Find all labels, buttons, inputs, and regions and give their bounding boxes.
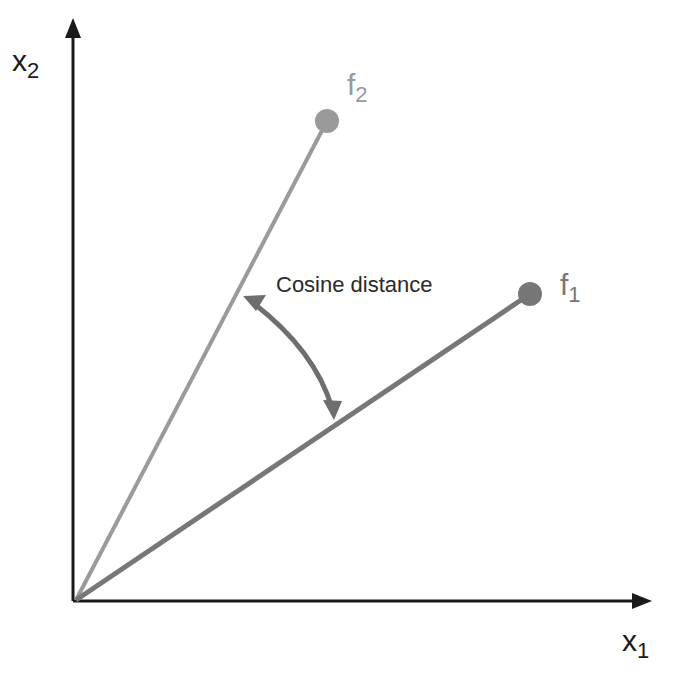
x-axis-arrowhead-icon: [632, 593, 652, 609]
f2-label: f2: [347, 68, 368, 108]
y-axis-label: x2: [12, 44, 39, 84]
vector-f1: [76, 282, 542, 600]
f1-label-sub: 1: [568, 282, 580, 307]
angle-arrow: [243, 295, 342, 420]
y-axis-arrowhead-icon: [65, 18, 81, 38]
vector-f2-endpoint: [315, 109, 339, 133]
vector-f1-endpoint: [518, 282, 542, 306]
x-axis-label-main: x: [622, 624, 637, 657]
cosine-distance-diagram: [0, 0, 673, 687]
x-axis-label-sub: 1: [637, 638, 649, 663]
f2-label-sub: 2: [355, 82, 367, 107]
y-axis-label-main: x: [12, 44, 27, 77]
y-axis-label-sub: 2: [27, 58, 39, 83]
x-axis: [73, 593, 652, 609]
vector-f2: [76, 109, 339, 600]
cosine-distance-label: Cosine distance: [276, 272, 433, 298]
y-axis: [65, 18, 81, 601]
arrowhead-down-icon: [323, 400, 342, 420]
x-axis-label: x1: [622, 624, 649, 664]
f1-label: f1: [560, 268, 581, 308]
